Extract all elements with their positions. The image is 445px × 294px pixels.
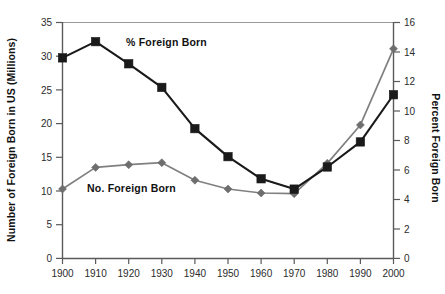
chart-background	[0, 0, 445, 294]
right-tick-label-8: 8	[404, 135, 410, 146]
right-tick-label-12: 12	[404, 76, 416, 87]
right-tick-label-0: 0	[404, 253, 410, 264]
annotation-no-foreign-born: No. Foreign Born	[87, 182, 176, 194]
right-tick-label-2: 2	[404, 224, 410, 235]
right-tick-label-6: 6	[404, 165, 410, 176]
x-tick-label-1950: 1950	[217, 268, 240, 279]
x-tick-label-1980: 1980	[316, 268, 339, 279]
data-point	[58, 54, 66, 62]
left-tick-label-20: 20	[41, 118, 53, 129]
right-tick-label-10: 10	[404, 106, 416, 117]
bottom-axis-tick-labels: 1900 1910 1920 1930 1940 1950 1960 1970 …	[51, 268, 405, 279]
annotation-percent-foreign-born: % Foreign Born	[126, 36, 207, 48]
data-point	[191, 124, 199, 132]
data-point	[356, 138, 364, 146]
data-point	[125, 60, 133, 68]
data-point	[257, 175, 265, 183]
left-tick-label-15: 15	[41, 152, 53, 163]
left-tick-label-25: 25	[41, 85, 53, 96]
right-tick-label-16: 16	[404, 17, 416, 28]
right-axis-title: Percent Foreign Born	[430, 93, 442, 202]
right-tick-label-14: 14	[404, 47, 416, 58]
x-tick-label-1910: 1910	[84, 268, 107, 279]
data-point	[323, 163, 331, 171]
x-tick-label-1940: 1940	[184, 268, 207, 279]
chart-figure: 35 30 25 20 15 10 5 0 16 14 12 10 8	[0, 0, 445, 294]
x-tick-label-1920: 1920	[118, 268, 141, 279]
x-tick-label-2000: 2000	[382, 268, 405, 279]
left-tick-label-0: 0	[46, 253, 52, 264]
left-tick-label-35: 35	[41, 17, 53, 28]
x-tick-label-1930: 1930	[151, 268, 174, 279]
x-tick-label-1900: 1900	[51, 268, 74, 279]
data-point	[158, 83, 166, 91]
left-tick-label-10: 10	[41, 186, 53, 197]
foreign-born-dual-axis-line-chart: 35 30 25 20 15 10 5 0 16 14 12 10 8	[0, 0, 445, 294]
left-tick-label-5: 5	[46, 219, 52, 230]
x-tick-label-1990: 1990	[349, 268, 372, 279]
data-point	[389, 91, 397, 99]
x-tick-label-1960: 1960	[250, 268, 273, 279]
data-point	[290, 185, 298, 193]
right-tick-label-4: 4	[404, 194, 410, 205]
data-point	[91, 37, 99, 45]
x-tick-label-1970: 1970	[283, 268, 306, 279]
data-point	[224, 152, 232, 160]
left-tick-label-30: 30	[41, 51, 53, 62]
left-axis-title: Number of Foreign Born in US (Millions)	[5, 38, 17, 242]
